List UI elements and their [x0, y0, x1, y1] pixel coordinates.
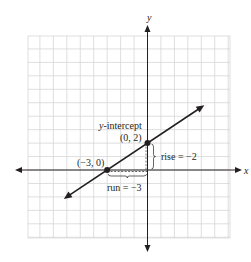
rise-label: rise = −2 [161, 151, 197, 162]
y-intercept-label: y-intercept [98, 120, 142, 131]
point-label-0-2: (0, 2) [120, 132, 142, 144]
y-axis-label: y [146, 12, 152, 23]
line-arrow-lower-left-icon [64, 192, 73, 199]
y-axis-arrow-up-icon [145, 25, 151, 32]
point-marker [145, 140, 151, 146]
rise-run-guides [107, 143, 155, 178]
run-brace [108, 174, 146, 178]
point-marker [104, 167, 110, 173]
run-label: run = −3 [107, 182, 142, 193]
x-axis-arrow-right-icon [235, 167, 242, 173]
y-axis-arrow-down-icon [145, 245, 151, 252]
x-axis-label: x [243, 165, 249, 176]
y-intercept-label-text: -intercept [103, 120, 142, 131]
x-axis-arrow-left-icon [15, 167, 22, 173]
line-arrow-upper-right-icon [196, 105, 205, 112]
point-label-neg3-0: (−3, 0) [77, 157, 104, 169]
coordinate-graph: x y y-intercept (0, 2) (−3, 0) rise = −2… [0, 0, 251, 262]
